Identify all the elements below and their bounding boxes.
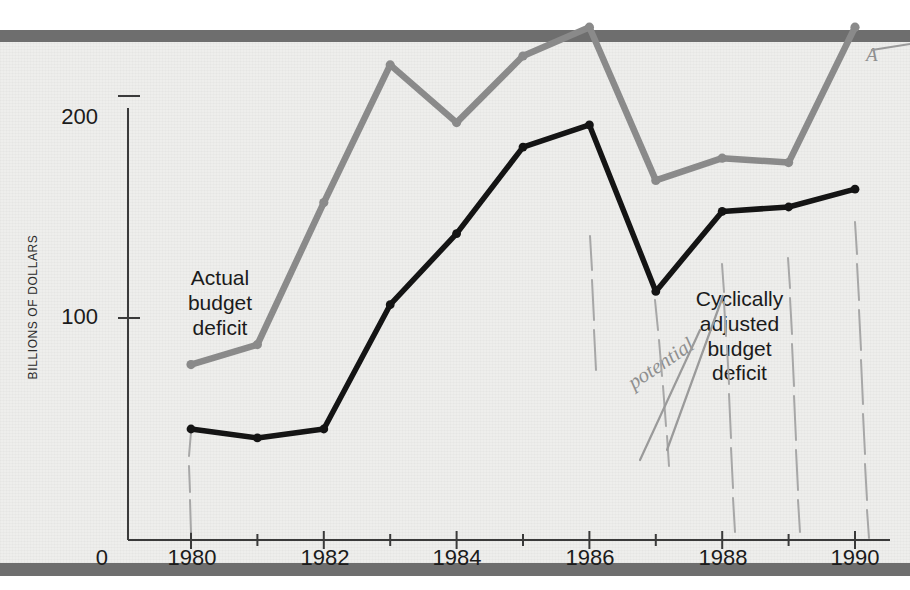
data-point [386,300,395,309]
chart-canvas [0,0,910,590]
data-point [518,51,527,60]
data-point [718,207,727,216]
data-point [851,185,860,194]
data-point [850,23,859,32]
data-point [386,60,395,69]
data-point [319,425,328,434]
data-point [651,176,660,185]
data-point [718,154,727,163]
data-point [651,287,660,296]
pencil-leader-lines [640,44,910,460]
figure-page: BILLIONS OF DOLLARS 200 100 0 1980 1982 … [0,0,910,590]
data-point [186,360,195,369]
data-point [452,229,461,238]
data-point [585,121,594,130]
data-point [784,203,793,212]
data-point [253,340,262,349]
axis-lines [128,108,890,540]
data-point [187,425,196,434]
data-point [784,158,793,167]
data-point [253,434,262,443]
data-point [452,118,461,127]
data-point [319,198,328,207]
data-point [585,23,594,32]
data-point [519,143,528,152]
series-actual-budget-deficit [186,23,859,370]
